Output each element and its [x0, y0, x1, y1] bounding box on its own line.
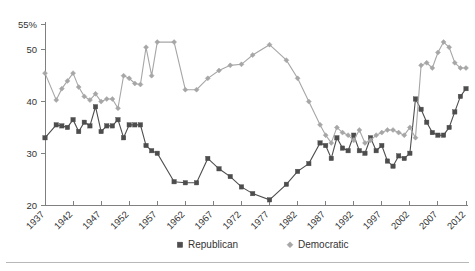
data-point — [380, 143, 384, 147]
data-point — [155, 40, 160, 45]
data-point — [217, 167, 221, 171]
data-point — [71, 117, 75, 121]
data-point — [419, 63, 424, 68]
series-group — [43, 40, 469, 202]
data-point — [335, 136, 339, 140]
x-tick-label: 1942 — [52, 209, 75, 232]
data-point — [385, 128, 390, 133]
data-point — [307, 161, 311, 165]
data-point — [121, 73, 126, 78]
x-tick-label: 1952 — [108, 209, 131, 232]
data-point — [385, 159, 389, 163]
data-point — [76, 85, 81, 90]
data-point — [155, 151, 159, 155]
data-point — [453, 110, 457, 114]
data-point — [362, 140, 367, 145]
data-point — [133, 123, 137, 127]
data-point — [110, 96, 115, 101]
data-point — [250, 191, 254, 195]
x-tick-label: 2002 — [389, 209, 412, 232]
line-chart: 2030405055% 1937194219471952195719621967… — [0, 0, 475, 271]
x-tick-label: 1957 — [136, 209, 159, 232]
data-point — [115, 106, 120, 111]
x-tick-label: 1987 — [304, 209, 327, 232]
data-point — [93, 105, 97, 109]
data-point — [396, 130, 401, 135]
data-point — [447, 125, 451, 129]
data-point — [413, 135, 418, 140]
data-point — [436, 133, 440, 137]
data-point — [408, 151, 412, 155]
y-axis-ticks: 2030405055% — [18, 19, 45, 211]
data-point — [374, 149, 378, 153]
data-point — [105, 124, 109, 128]
x-axis-ticks: 1937194219471952195719621967197219771982… — [24, 201, 468, 231]
data-point — [194, 181, 198, 185]
data-point — [295, 169, 299, 173]
data-point — [82, 120, 86, 124]
data-point — [458, 94, 462, 98]
y-tick-label: 50 — [26, 44, 37, 55]
data-point — [329, 156, 333, 160]
series-line-republican — [45, 89, 466, 200]
data-point — [318, 141, 322, 145]
data-point — [54, 123, 58, 127]
x-tick-label: 2012 — [445, 209, 468, 232]
x-tick-label: 1977 — [248, 209, 271, 232]
y-tick-label: 55% — [18, 19, 38, 30]
data-point — [149, 73, 154, 78]
data-point — [391, 164, 395, 168]
data-point — [239, 185, 243, 189]
data-point — [138, 123, 142, 127]
data-point — [357, 128, 362, 133]
x-tick-label: 1992 — [332, 209, 355, 232]
data-point — [379, 130, 384, 135]
data-point — [464, 86, 468, 90]
data-point — [138, 82, 143, 87]
data-point — [172, 180, 176, 184]
series-democratic — [43, 40, 469, 146]
data-point — [116, 117, 120, 121]
data-point — [99, 129, 103, 133]
data-point — [413, 97, 417, 101]
data-point — [76, 129, 80, 133]
data-point — [60, 124, 64, 128]
x-tick-label: 1937 — [24, 209, 47, 232]
chart-legend: RepublicanDemocratic — [177, 239, 348, 250]
data-point — [425, 120, 429, 124]
data-point — [346, 149, 350, 153]
y-tick-label: 30 — [26, 148, 37, 159]
data-point — [402, 156, 406, 160]
data-point — [127, 123, 131, 127]
legend-marker-diamond-icon — [287, 242, 293, 248]
data-point — [43, 136, 47, 140]
legend-marker-square-icon — [177, 242, 182, 247]
y-tick-label: 20 — [26, 200, 37, 211]
x-tick-label: 1997 — [360, 209, 383, 232]
data-point — [323, 143, 327, 147]
data-point — [396, 154, 400, 158]
data-point — [172, 40, 177, 45]
data-point — [206, 156, 210, 160]
legend-label: Republican — [188, 239, 238, 250]
data-point — [54, 98, 59, 103]
data-point — [363, 151, 367, 155]
data-point — [340, 146, 344, 150]
data-point — [464, 65, 469, 70]
data-point — [284, 182, 288, 186]
x-tick-label: 1947 — [80, 209, 103, 232]
data-point — [144, 143, 148, 147]
data-point — [419, 107, 423, 111]
data-point — [183, 181, 187, 185]
x-tick-label: 1967 — [192, 209, 215, 232]
y-tick-label: 40 — [26, 96, 37, 107]
data-point — [267, 198, 271, 202]
chart-container: 2030405055% 1937194219471952195719621967… — [0, 0, 475, 271]
x-tick-label: 1962 — [164, 209, 187, 232]
data-point — [183, 87, 188, 92]
legend-item-democratic[interactable]: Democratic — [287, 239, 349, 250]
data-point — [391, 128, 396, 133]
data-point — [43, 71, 48, 76]
legend-item-republican[interactable]: Republican — [177, 239, 238, 250]
x-tick-label: 2007 — [417, 209, 440, 232]
